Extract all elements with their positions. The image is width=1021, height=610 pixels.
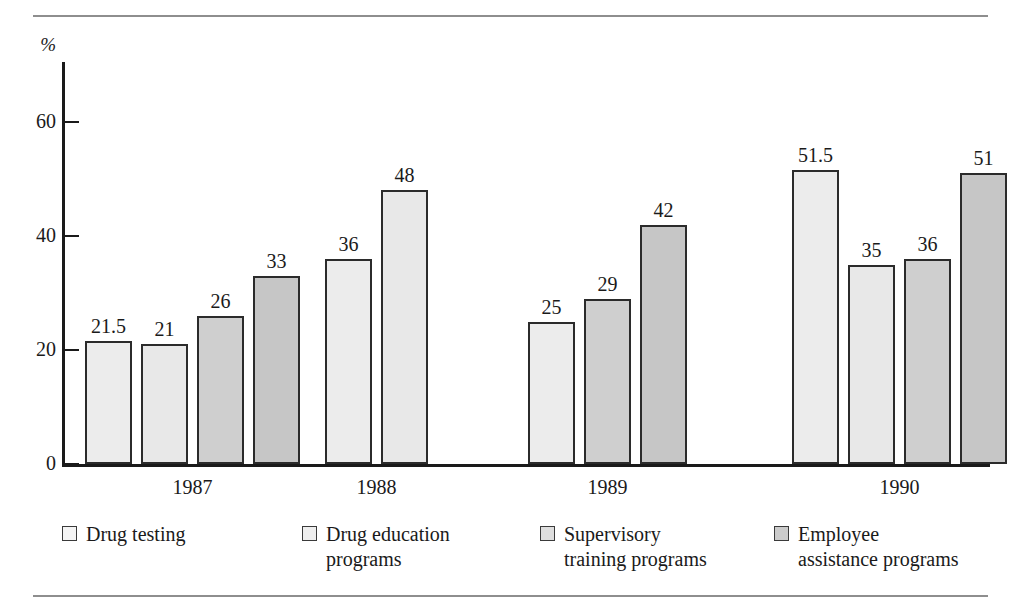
- x-axis-label-1987: 1987: [173, 476, 213, 498]
- bar-1990-s3: 51: [960, 173, 1007, 464]
- legend-swatch-icon: [540, 526, 555, 541]
- bar-1990-s1: 35: [848, 265, 895, 465]
- bottom-rule: [33, 595, 988, 597]
- bar-1988-s0: 36: [325, 259, 372, 464]
- y-tick-label-60: 60: [4, 111, 56, 131]
- y-tick-label-20: 20: [4, 339, 56, 359]
- y-axis-unit-label: %: [4, 34, 56, 56]
- y-axis-tick-labels: 0204060: [4, 62, 56, 466]
- bar-value-label: 36: [918, 234, 938, 254]
- chart-legend: Drug testingDrug education programsSuper…: [62, 522, 1002, 582]
- legend-label: Employee assistance programs: [798, 522, 959, 572]
- bar-value-label: 33: [267, 251, 287, 271]
- bar-1987-s2: 26: [197, 316, 244, 464]
- legend-item-3[interactable]: Supervisory training programs: [540, 522, 707, 572]
- bar-value-label: 42: [654, 200, 674, 220]
- legend-item-4[interactable]: Employee assistance programs: [774, 522, 959, 572]
- x-axis-label-1989: 1989: [588, 476, 628, 498]
- legend-item-2[interactable]: Drug education programs: [302, 522, 450, 572]
- bar-value-label: 35: [862, 240, 882, 260]
- legend-swatch-icon: [774, 526, 789, 541]
- bar-1990-s0: 51.5: [792, 170, 839, 464]
- bar-value-label: 29: [598, 274, 618, 294]
- x-axis-label-1990: 1990: [880, 476, 920, 498]
- top-rule: [33, 15, 988, 17]
- y-tick-label-40: 40: [4, 225, 56, 245]
- y-tick-label-0: 0: [4, 453, 56, 473]
- legend-label: Supervisory training programs: [564, 522, 707, 572]
- bar-1987-s3: 33: [253, 276, 300, 464]
- bar-1988-s1: 48: [381, 190, 428, 464]
- bar-value-label: 26: [211, 291, 231, 311]
- x-axis-label-1988: 1988: [357, 476, 397, 498]
- legend-swatch-icon: [62, 526, 77, 541]
- legend-item-1[interactable]: Drug testing: [62, 522, 185, 547]
- legend-label: Drug testing: [86, 522, 185, 547]
- bar-1987-s0: 21.5: [85, 341, 132, 464]
- bar-series-container: 21.5212633364825294251.5353651: [62, 62, 990, 464]
- bar-value-label: 36: [339, 234, 359, 254]
- bar-1989-s2: 29: [584, 299, 631, 464]
- bar-value-label: 21: [155, 319, 175, 339]
- bar-value-label: 51: [974, 148, 994, 168]
- plot-area: % 0204060 21.5212633364825294251.5353651…: [62, 62, 990, 466]
- bar-1987-s1: 21: [141, 344, 188, 464]
- figure: % 0204060 21.5212633364825294251.5353651…: [0, 0, 1021, 610]
- bar-value-label: 21.5: [91, 316, 126, 336]
- bar-1989-s0: 25: [528, 322, 575, 465]
- bar-value-label: 25: [542, 297, 562, 317]
- x-axis-line: [62, 464, 990, 467]
- bar-value-label: 51.5: [798, 145, 833, 165]
- legend-swatch-icon: [302, 526, 317, 541]
- bar-1989-s3: 42: [640, 225, 687, 464]
- bar-value-label: 48: [395, 165, 415, 185]
- bar-1990-s2: 36: [904, 259, 951, 464]
- legend-label: Drug education programs: [326, 522, 450, 572]
